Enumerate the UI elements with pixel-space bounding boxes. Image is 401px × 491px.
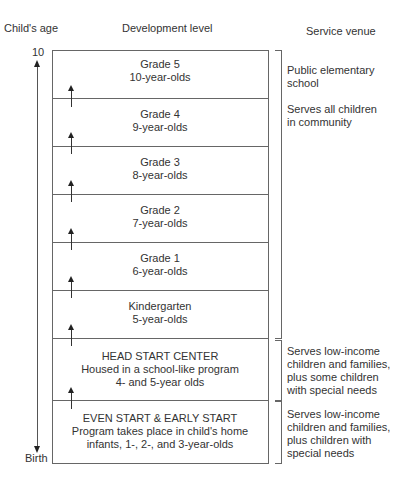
bracket-even-start (275, 401, 282, 464)
venue-desc-line2: in community (287, 116, 377, 129)
bracket-public-school (275, 50, 282, 339)
level-title: Grade 2 (52, 204, 268, 217)
level-age: 6-year-olds (52, 265, 268, 278)
venue-title-line1: Public elementary (287, 64, 377, 77)
venue-desc-line2: children and families, (287, 421, 390, 434)
level-desc: Program takes place in child's home (52, 425, 268, 438)
level-grade-1: Grade 1 6-year-olds (52, 242, 268, 290)
progression-arrow-icon (71, 233, 72, 250)
header-development-level: Development level (122, 22, 213, 34)
level-head-start: HEAD START CENTER Housed in a school-lik… (52, 338, 268, 400)
level-title: Grade 3 (52, 156, 268, 169)
header-childs-age: Child's age (4, 22, 58, 34)
axis-top-label: 10 (32, 46, 44, 58)
level-age: 4- and 5-year olds (52, 376, 268, 389)
venue-desc-line3: plus some children (287, 371, 390, 384)
level-title: Grade 5 (52, 58, 268, 71)
level-title: EVEN START & EARLY START (52, 412, 268, 425)
level-desc: Housed in a school-like program (52, 363, 268, 376)
venue-desc-line4: with special needs (287, 384, 390, 397)
level-age: 9-year-olds (52, 121, 268, 134)
venue-even-start: Serves low-income children and families,… (287, 408, 390, 460)
progression-arrow-icon (71, 281, 72, 298)
level-age: infants, 1-, 2-, and 3-year-olds (52, 438, 268, 451)
venue-desc-line3: plus children with (287, 434, 390, 447)
venue-public-school: Public elementary school Serves all chil… (287, 64, 377, 129)
venue-desc-line1: Serves low-income (287, 408, 390, 421)
level-grade-3: Grade 3 8-year-olds (52, 146, 268, 194)
level-title: Grade 4 (52, 108, 268, 121)
progression-arrow-icon (71, 137, 72, 154)
progression-arrow-icon (71, 90, 72, 107)
axis-down-arrow-icon (34, 446, 40, 453)
axis-bottom-label: Birth (25, 452, 48, 464)
level-kindergarten: Kindergarten 5-year-olds (52, 290, 268, 338)
progression-arrow-icon (71, 329, 72, 346)
level-title: HEAD START CENTER (52, 350, 268, 363)
axis-up-arrow-icon (34, 60, 40, 67)
venue-desc-line1: Serves low-income (287, 345, 390, 358)
venue-desc-line2: children and families, (287, 358, 390, 371)
level-title: Grade 1 (52, 252, 268, 265)
venue-title-line2: school (287, 77, 377, 90)
level-title: Kindergarten (52, 300, 268, 313)
level-grade-4: Grade 4 9-year-olds (52, 98, 268, 146)
level-age: 7-year-olds (52, 217, 268, 230)
venue-head-start: Serves low-income children and families,… (287, 345, 390, 397)
progression-arrow-icon (71, 392, 72, 409)
venue-desc-line4: special needs (287, 447, 390, 460)
age-axis-line (37, 66, 38, 449)
level-grade-2: Grade 2 7-year-olds (52, 194, 268, 242)
level-grade-5: Grade 5 10-year-olds (52, 50, 268, 98)
venue-desc-line1: Serves all children (287, 103, 377, 116)
level-even-start-early-start: EVEN START & EARLY START Program takes p… (52, 400, 268, 462)
bracket-head-start (275, 340, 282, 401)
header-service-venue: Service venue (306, 25, 376, 37)
progression-arrow-icon (71, 185, 72, 202)
level-age: 10-year-olds (52, 71, 268, 84)
level-age: 5-year-olds (52, 313, 268, 326)
level-age: 8-year-olds (52, 169, 268, 182)
